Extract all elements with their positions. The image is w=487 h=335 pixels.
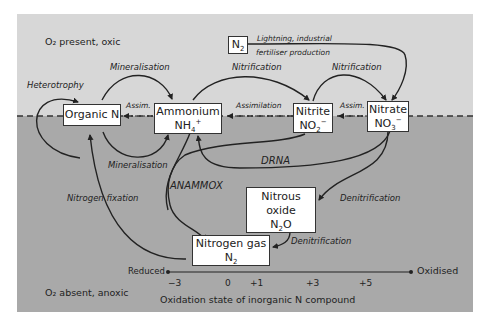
n2-source-node: N2	[228, 36, 248, 54]
nitrous-oxide-node: Nitrous oxide N2O	[246, 187, 316, 233]
organic-n-label: Organic N	[65, 108, 120, 121]
denitrification-1-arrow	[319, 131, 388, 200]
drna-arrow	[198, 131, 390, 168]
nitrification-1-arrow	[193, 77, 309, 100]
nitrate-label: Nitrate	[368, 103, 408, 117]
nitrous-oxide-line1: Nitrous	[247, 190, 315, 204]
n2o-o: O	[283, 218, 292, 231]
nitrate-sub: 3	[391, 124, 395, 132]
anammox-ammonium-line	[166, 133, 190, 210]
anammox-label: ANAMMOX	[170, 180, 223, 191]
nitrification-2-arrow	[313, 75, 386, 101]
nitrogen-gas-formula-base: N	[225, 251, 233, 264]
nitrogen-fixation-label: Nitrogen fixation	[67, 193, 138, 203]
mineralisation-top-label: Mineralisation	[110, 62, 170, 72]
mineralisation-bottom-arrow	[103, 132, 168, 157]
ammonium-formula: NH4+	[155, 119, 221, 133]
anoxic-label: O₂ absent, anoxic	[45, 287, 129, 298]
mineralisation-bottom-label: Mineralisation	[108, 160, 168, 170]
nitrate-node: Nitrate NO3−	[367, 101, 409, 132]
n2-sub: 2	[240, 45, 244, 53]
nitrate-sup: −	[396, 116, 402, 124]
nitrite-node: Nitrite NO2−	[293, 103, 333, 133]
nitrogen-gas-label: Nitrogen gas	[193, 237, 269, 251]
nitrite-label: Nitrite	[294, 105, 332, 119]
n2-formula: N	[232, 38, 240, 51]
axis-reduced-label: Reduced	[128, 266, 165, 276]
axis-tick: +1	[250, 278, 263, 288]
oxic-label: O₂ present, oxic	[45, 36, 120, 47]
nitrification-2-label: Nitrification	[332, 62, 382, 72]
nitrite-formula: NO2−	[294, 119, 332, 133]
nitrite-sub: 2	[316, 126, 320, 134]
drna-label: DRNA	[261, 155, 290, 166]
nitrogen-gas-sub: 2	[233, 258, 237, 266]
nitrate-formula-base: NO	[374, 117, 391, 130]
mineralisation-top-arrow	[102, 75, 172, 100]
nitrate-formula: NO3−	[368, 117, 408, 131]
ammonium-node: Ammonium NH4+	[154, 103, 222, 134]
denitrification-2-label: Denitrification	[291, 236, 351, 246]
assim-2-label: Assim.	[340, 101, 365, 110]
nitrogen-gas-node: Nitrogen gas N2	[192, 235, 270, 266]
nitrous-oxide-line2: oxide	[247, 204, 315, 218]
n2o-n: N	[270, 218, 278, 231]
nitrite-sup: −	[321, 118, 327, 126]
organic-n-node: Organic N	[63, 104, 121, 126]
lightning-label-line2: fertiliser production	[256, 48, 330, 57]
ammonium-sup: +	[196, 118, 202, 126]
nitrogen-gas-formula: N2	[193, 251, 269, 265]
axis-tick: +3	[306, 278, 319, 288]
ammonium-label: Ammonium	[155, 105, 221, 119]
axis-tick: −3	[168, 278, 181, 288]
denitrification-2-arrow	[273, 232, 290, 247]
nitrite-formula-base: NO	[299, 119, 316, 132]
assim-1-label: Assim.	[126, 101, 151, 110]
nitrogen-cycle-diagram: O₂ present, oxic O₂ absent, anoxic N2 Or…	[0, 0, 487, 335]
assimilation-label: Assimilation	[236, 101, 281, 110]
ammonium-formula-base: NH	[175, 119, 192, 132]
ammonium-sub: 4	[191, 126, 195, 134]
axis-title: Oxidation state of inorganic N compound	[160, 294, 355, 305]
nitrous-oxide-formula: N2O	[247, 218, 315, 232]
axis-tick: +5	[359, 278, 372, 288]
denitrification-1-label: Denitrification	[340, 193, 400, 203]
nitrification-1-label: Nitrification	[232, 62, 282, 72]
axis-tick: 0	[225, 278, 231, 288]
lightning-label-line1: Lightning, industrial	[257, 34, 332, 43]
heterotrophy-label: Heterotrophy	[27, 80, 84, 90]
axis-oxidised-label: Oxidised	[417, 265, 458, 276]
